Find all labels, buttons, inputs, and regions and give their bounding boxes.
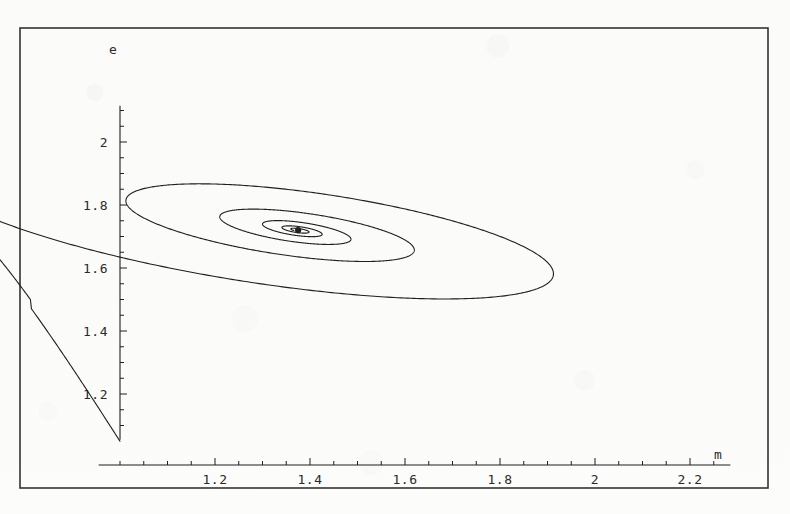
x-axis-label: m <box>714 447 722 462</box>
x-axis-ticks <box>120 458 714 465</box>
plot-frame <box>20 28 768 488</box>
figure-canvas: 1.21.41.61.822.2 1.21.41.61.82 m e <box>0 0 790 514</box>
y-axis-label: e <box>109 42 117 57</box>
y-axis-tick-labels: 1.21.41.61.82 <box>83 135 108 402</box>
y-axis-ticks <box>120 111 127 426</box>
x-tick-label: 1.6 <box>393 472 418 487</box>
x-tick-label: 2.2 <box>678 472 703 487</box>
x-axis-tick-labels: 1.21.41.61.822.2 <box>203 472 703 487</box>
x-tick-label: 1.4 <box>298 472 323 487</box>
x-tick-label: 1.8 <box>488 472 513 487</box>
trajectory-curve <box>0 184 553 441</box>
y-tick-label: 1.4 <box>83 324 108 339</box>
trajectory-path <box>0 184 553 441</box>
y-tick-label: 1.6 <box>83 261 108 276</box>
y-tick-label: 1.8 <box>83 198 108 213</box>
x-tick-label: 2 <box>591 472 599 487</box>
x-tick-label: 1.2 <box>203 472 228 487</box>
fixed-point-marker <box>295 227 301 233</box>
axes-lines <box>99 106 731 465</box>
phase-portrait-plot: 1.21.41.61.822.2 1.21.41.61.82 m e <box>0 0 790 514</box>
y-tick-label: 2 <box>100 135 108 150</box>
